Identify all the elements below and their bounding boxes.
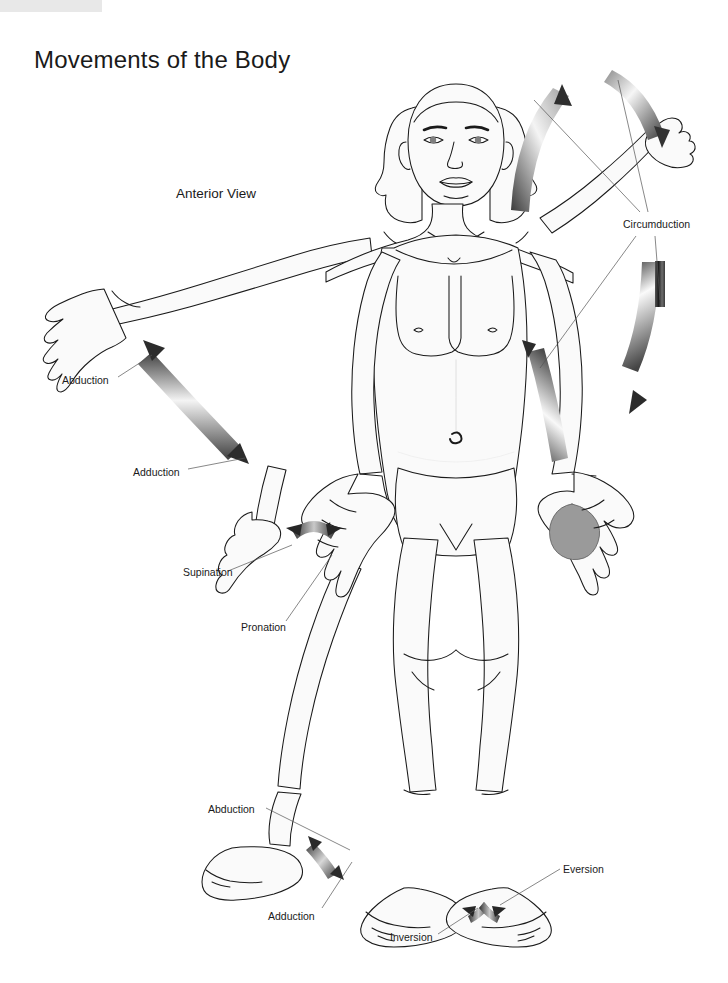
annotation-inversion: Inversion bbox=[390, 931, 433, 943]
annotation-eversion: Eversion bbox=[563, 863, 604, 875]
ghost-left-leg-abducted bbox=[202, 560, 361, 900]
leader-eversion bbox=[500, 869, 560, 905]
legs bbox=[393, 538, 518, 795]
ghost-left-arm-abducted bbox=[43, 238, 372, 392]
body-diagram-figure bbox=[0, 0, 728, 983]
annotation-foot-abduction: Abduction bbox=[208, 803, 255, 815]
annotation-pronation: Pronation bbox=[241, 621, 286, 633]
annotation-supination: Supination bbox=[183, 566, 233, 578]
ghost-right-arm-raised bbox=[540, 118, 695, 233]
annotation-foot-adduction: Adduction bbox=[268, 910, 315, 922]
hip-abduction-adduction-arrow bbox=[306, 836, 344, 880]
annotation-arm-abduction: Abduction bbox=[62, 374, 109, 386]
diagram-page: Movements of the Body Anterior View bbox=[0, 0, 728, 983]
annotation-circumduction: Circumduction bbox=[623, 218, 690, 230]
annotation-arm-adduction: Adduction bbox=[133, 466, 180, 478]
shoulder-circumduction-upper-arrow bbox=[604, 70, 670, 148]
shoulder-abduction-adduction-arrow bbox=[138, 340, 249, 464]
leader-arm-adduction bbox=[188, 458, 245, 469]
